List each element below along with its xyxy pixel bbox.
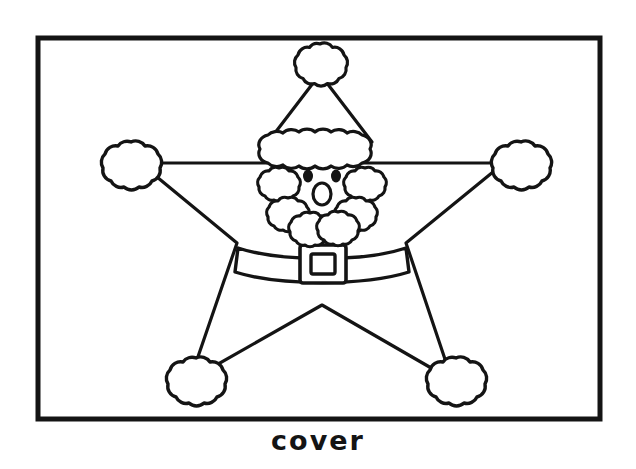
hat-pompom <box>294 43 347 86</box>
left-boot <box>166 357 226 406</box>
nose <box>313 183 331 205</box>
right-boot <box>426 357 486 406</box>
artboard <box>0 0 636 469</box>
left-eye <box>303 170 313 183</box>
coloring-page: cover <box>0 0 636 469</box>
hat-brim <box>259 129 371 169</box>
right-eye <box>331 170 341 183</box>
right-mitten <box>491 141 551 190</box>
santa-star-figure <box>101 43 551 406</box>
belt-buckle-inner <box>311 254 335 274</box>
page-caption: cover <box>0 425 636 457</box>
left-mitten <box>101 141 161 190</box>
